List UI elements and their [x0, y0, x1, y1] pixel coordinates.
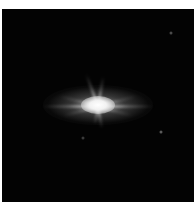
star-core	[81, 96, 115, 114]
faint-star	[170, 32, 173, 35]
faint-star	[82, 137, 85, 140]
sky-image	[2, 9, 194, 202]
faint-star	[160, 131, 163, 134]
